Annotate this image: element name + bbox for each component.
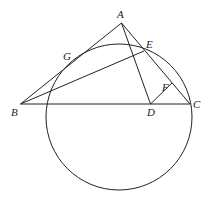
segment-ad: [122, 23, 151, 104]
label-d: D: [146, 106, 155, 118]
geometry-diagram: A B C D E F G: [0, 0, 213, 199]
segment-ac: [122, 23, 191, 104]
segment-ab: [21, 23, 122, 104]
segment-be: [21, 51, 145, 104]
label-e: E: [145, 38, 153, 50]
label-b: B: [11, 106, 18, 118]
label-a: A: [116, 8, 124, 20]
label-f: F: [161, 81, 169, 93]
label-c: C: [193, 98, 201, 110]
label-g: G: [63, 50, 71, 62]
